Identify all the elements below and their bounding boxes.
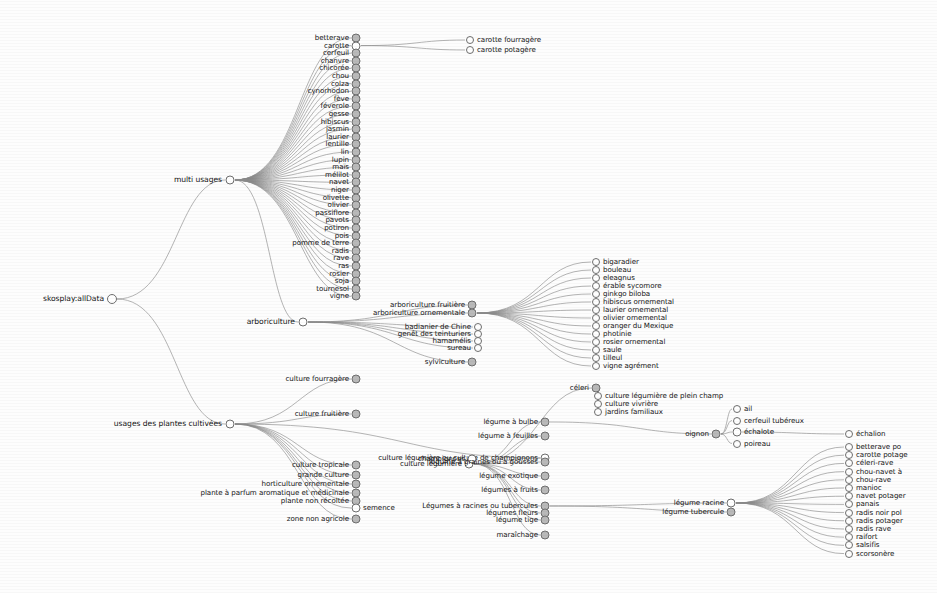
node-vigne-agrement[interactable] — [592, 362, 600, 370]
node-radis-rave[interactable] — [845, 525, 853, 533]
node-tilleul[interactable] — [592, 354, 600, 362]
edge-arbo-ornementale-vigne-agrement — [477, 313, 591, 366]
edge-legume-racine-betterave-po — [736, 447, 844, 503]
node-multi-usages[interactable] — [226, 176, 235, 185]
node-usages-des-plantes-cultivees[interactable] — [226, 420, 235, 429]
label-arboriculture-ornementale: arboriculture ornementale — [373, 309, 465, 316]
node-sureau[interactable] — [474, 344, 482, 352]
node-grande-culture[interactable] — [352, 471, 361, 480]
node-legume-a-graines-ou-a-gousses[interactable] — [541, 458, 550, 467]
edge-multi-usages-arboriculture — [235, 180, 298, 322]
node-vigne[interactable] — [352, 292, 361, 301]
node-eleagnus[interactable] — [592, 274, 600, 282]
label-legume-a-graines-ou-a-gousses: légume à graines ou à gousses — [429, 458, 538, 465]
node-legume-tige[interactable] — [541, 516, 550, 525]
node-legumes-a-fruits[interactable] — [541, 486, 550, 495]
node-culture-tropicale[interactable] — [352, 461, 361, 470]
label-carotte-fourragere: carotte fourragère — [477, 36, 541, 43]
node-panais[interactable] — [845, 500, 853, 508]
label-zone-non-agricole: zone non agricole — [287, 515, 349, 522]
edge-arbo-ornementale-eleagnus — [477, 278, 591, 313]
node-poireau[interactable] — [733, 440, 741, 448]
edge-oignon-poireau — [721, 434, 732, 444]
node-scorsonere[interactable] — [845, 550, 853, 558]
node-legume-a-feuilles[interactable] — [541, 432, 550, 441]
edge-legume-racine-chou-rave — [736, 480, 844, 503]
node-salsifis[interactable] — [845, 541, 853, 549]
node-radis-noir-pol[interactable] — [845, 509, 853, 517]
label-plante-non-recoltee: plante non récoltée — [281, 497, 349, 504]
label-root: skosplay:allData — [43, 295, 104, 302]
label-echalion: échalion — [856, 430, 886, 437]
node-culture-fruitiere[interactable] — [352, 410, 361, 419]
node-echalion[interactable] — [845, 430, 853, 438]
node-legume-a-bulbe[interactable] — [541, 418, 550, 427]
node-culture-legumiere-de-plein-champ[interactable] — [594, 392, 602, 400]
label-legume-exotique: légume exotique — [479, 472, 538, 479]
label-culture-fruitiere: culture fruitière — [295, 410, 349, 417]
label-echalote: échalote — [744, 428, 774, 435]
node-chou-rave[interactable] — [845, 476, 853, 484]
node-semence[interactable] — [352, 504, 361, 513]
edge-root-multi-usages — [117, 180, 225, 299]
node-jardins-familiaux[interactable] — [594, 408, 602, 416]
node-erable-sycomore[interactable] — [592, 282, 600, 290]
node-celeri-rave[interactable] — [845, 459, 853, 467]
node-legume-exotique[interactable] — [541, 472, 550, 481]
label-celeri: céleri — [570, 384, 589, 391]
node-rosier-ornemental[interactable] — [592, 338, 600, 346]
edge-legume-racine-manioc — [736, 488, 844, 503]
node-culture-vivriere[interactable] — [594, 400, 602, 408]
node-ail[interactable] — [733, 405, 741, 413]
node-bigaradier[interactable] — [592, 258, 600, 266]
node-arboriculture[interactable] — [299, 318, 308, 327]
label-usages-des-plantes-cultivees: usages des plantes cultivées — [114, 420, 222, 427]
node-legume-tubercule[interactable] — [727, 508, 736, 517]
edge-usages-culture-tropicale — [235, 424, 351, 465]
node-photinie[interactable] — [592, 330, 600, 338]
node-manioc[interactable] — [845, 484, 853, 492]
node-raifort[interactable] — [845, 533, 853, 541]
node-arboriculture-ornementale[interactable] — [468, 309, 477, 318]
node-radis-potager[interactable] — [845, 517, 853, 525]
node-echalote[interactable] — [733, 428, 742, 437]
label-poireau: poireau — [744, 440, 770, 447]
label-jardins-familiaux: jardins familiaux — [605, 408, 663, 415]
node-legume-racine[interactable] — [727, 499, 736, 508]
node-oranger-du-mexique[interactable] — [592, 322, 600, 330]
node-betterave-po[interactable] — [845, 443, 853, 451]
label-oignon: oignon — [685, 430, 709, 437]
node-horticulture-ornementale[interactable] — [352, 480, 361, 489]
node-zone-non-agricole[interactable] — [352, 515, 361, 524]
node-cerfeuil-tubereux[interactable] — [733, 417, 741, 425]
node-bouleau[interactable] — [592, 266, 600, 274]
node-maraichage[interactable] — [541, 531, 550, 540]
label-sureau: sureau — [447, 344, 471, 351]
node-ginkgo-biloba[interactable] — [592, 290, 600, 298]
label-scorsonere: scorsonère — [856, 550, 894, 557]
node-root[interactable] — [107, 294, 117, 304]
node-hibiscus-ornemental[interactable] — [592, 298, 600, 306]
node-culture-fourragere[interactable] — [352, 375, 361, 384]
edge-carotte-carotte-fourragere — [361, 40, 465, 46]
label-culture-tropicale: culture tropicale — [292, 461, 349, 468]
node-oignon[interactable] — [712, 430, 721, 439]
label-sylviculture: sylviculture — [425, 358, 465, 365]
node-carotte-fourragere[interactable] — [466, 36, 474, 44]
node-carotte-potage[interactable] — [845, 451, 853, 459]
node-saule[interactable] — [592, 346, 600, 354]
node-chou-navet-a[interactable] — [845, 468, 853, 476]
label-semence: semence — [363, 504, 395, 511]
node-laurier-ornemental[interactable] — [592, 306, 600, 314]
node-carotte-potagere[interactable] — [466, 46, 474, 54]
node-olivier-ornemental[interactable] — [592, 314, 600, 322]
label-legume-racine: légume racine — [674, 499, 724, 506]
node-navet-potager[interactable] — [845, 492, 853, 500]
node-sylviculture[interactable] — [468, 358, 477, 367]
label-vigne-agrement: vigne agrément — [603, 362, 659, 369]
label-multi-usages: multi usages — [174, 176, 222, 183]
edge-arbo-ornementale-erable-sycomore — [477, 286, 591, 313]
edge-legume-racine-chou-navet-a — [736, 472, 844, 503]
edge-legume-racine-celeri-rave — [736, 463, 844, 503]
label-legume-tubercule: légume tubercule — [662, 508, 724, 515]
